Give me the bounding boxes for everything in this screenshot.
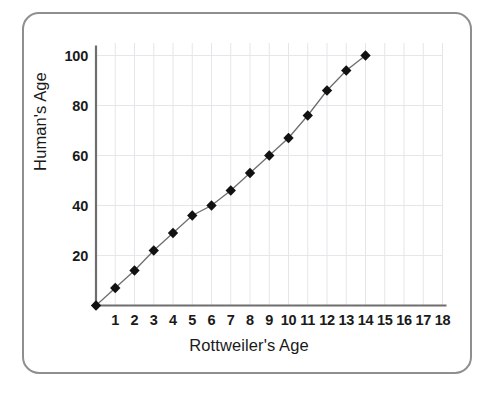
x-tick-label: 16	[396, 312, 412, 328]
x-tick-label: 9	[265, 312, 273, 328]
y-tick-label: 20	[40, 248, 88, 264]
gridlines	[96, 43, 443, 306]
x-tick-label: 18	[435, 312, 451, 328]
x-tick-label: 10	[281, 312, 297, 328]
x-tick-label: 11	[300, 312, 315, 328]
x-tick-label: 15	[377, 312, 393, 328]
x-tick-label: 3	[150, 312, 158, 328]
x-tick-label: 4	[169, 312, 177, 328]
x-tick-label: 7	[227, 312, 235, 328]
x-tick-label: 17	[415, 312, 431, 328]
x-tick-label: 6	[208, 312, 216, 328]
x-tick-label: 8	[246, 312, 254, 328]
axis-lines	[96, 46, 447, 306]
x-tick-label: 2	[131, 312, 139, 328]
x-tick-label: 1	[111, 312, 119, 328]
x-tick-label: 13	[338, 312, 354, 328]
y-axis-title: Human's Age	[31, 62, 50, 182]
x-axis-title: Rottweiler's Age	[0, 336, 498, 355]
x-tick-label: 14	[358, 312, 374, 328]
x-tick-label: 5	[188, 312, 196, 328]
y-tick-label: 40	[40, 198, 88, 214]
x-tick-label: 12	[319, 312, 335, 328]
